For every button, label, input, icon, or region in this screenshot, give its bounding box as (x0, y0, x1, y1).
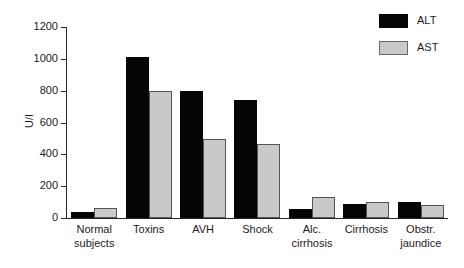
y-axis-tick-label: 200 (18, 180, 58, 191)
bar-ast (312, 197, 335, 218)
y-axis-tick (61, 27, 66, 28)
bar-ast (149, 91, 172, 218)
x-axis-tick-label-line: Shock (230, 222, 284, 236)
y-axis-tick (61, 91, 66, 92)
y-axis-tick (61, 154, 66, 155)
bar-ast (203, 139, 226, 218)
bar-alt (126, 57, 149, 218)
y-axis-tick (61, 123, 66, 124)
bar-group (339, 27, 393, 218)
bar-alt (398, 202, 421, 218)
y-axis-tick-labels: 120010008006004002000 (14, 27, 58, 218)
x-axis-tick-label-line: jaundice (394, 236, 448, 250)
y-axis-tick-label: 1000 (18, 53, 58, 64)
bar-alt (180, 91, 203, 218)
x-axis-tick-label-line: Toxins (121, 222, 175, 236)
x-axis-tick-label-line: Cirrhosis (339, 222, 393, 236)
y-axis-tick-label: 800 (18, 85, 58, 96)
x-axis-tick-label-line: AVH (176, 222, 230, 236)
bar-ast (421, 205, 444, 218)
legend-swatch-alt (379, 14, 408, 28)
bar-group (285, 27, 339, 218)
x-axis-tick-label: Normalsubjects (67, 222, 121, 250)
bar-alt (71, 212, 94, 218)
x-axis-tick-label: Cirrhosis (339, 222, 393, 236)
y-axis-tick (61, 218, 66, 219)
x-axis-tick-label: Alc.cirrhosis (285, 222, 339, 250)
bar-alt (343, 204, 366, 218)
y-axis-tick-label: 600 (18, 117, 58, 128)
x-axis-tick-label: Obstr.jaundice (394, 222, 448, 250)
y-axis-tick (61, 59, 66, 60)
bar-group (230, 27, 284, 218)
y-axis-tick (61, 186, 66, 187)
bar-ast (366, 202, 389, 218)
legend-swatch-ast (379, 41, 408, 55)
y-axis-tick-label: 0 (18, 212, 58, 223)
x-axis-line (66, 218, 448, 219)
bar-ast (94, 208, 117, 218)
legend-item-alt[interactable]: ALT (379, 13, 436, 28)
bar-group (121, 27, 175, 218)
x-axis-tick-label: AVH (176, 222, 230, 236)
plot-area (66, 27, 448, 218)
bar-group (176, 27, 230, 218)
x-axis-tick-label-line: subjects (67, 236, 121, 250)
bar-group (67, 27, 121, 218)
x-axis-tick-label: Toxins (121, 222, 175, 236)
chart-legend: ALTAST (379, 13, 461, 55)
bar-series-container (67, 27, 448, 218)
bar-group (394, 27, 448, 218)
bar-chart-figure: U/l 120010008006004002000 Normalsubjects… (0, 0, 464, 268)
y-axis-tick-label: 400 (18, 148, 58, 159)
x-axis-tick-label: Shock (230, 222, 284, 236)
x-axis-tick-labels: NormalsubjectsToxinsAVHShockAlc.cirrhosi… (66, 222, 448, 266)
y-axis-tick-label: 1200 (18, 21, 58, 32)
x-axis-tick-label-line: cirrhosis (285, 236, 339, 250)
legend-label: ALT (417, 15, 436, 26)
bar-ast (257, 144, 280, 218)
legend-label: AST (417, 42, 438, 53)
x-axis-tick-label-line: Alc. (285, 222, 339, 236)
legend-item-ast[interactable]: AST (379, 40, 438, 55)
x-axis-tick-label-line: Obstr. (394, 222, 448, 236)
x-axis-tick-label-line: Normal (67, 222, 121, 236)
bar-alt (289, 209, 312, 218)
bar-alt (234, 100, 257, 218)
